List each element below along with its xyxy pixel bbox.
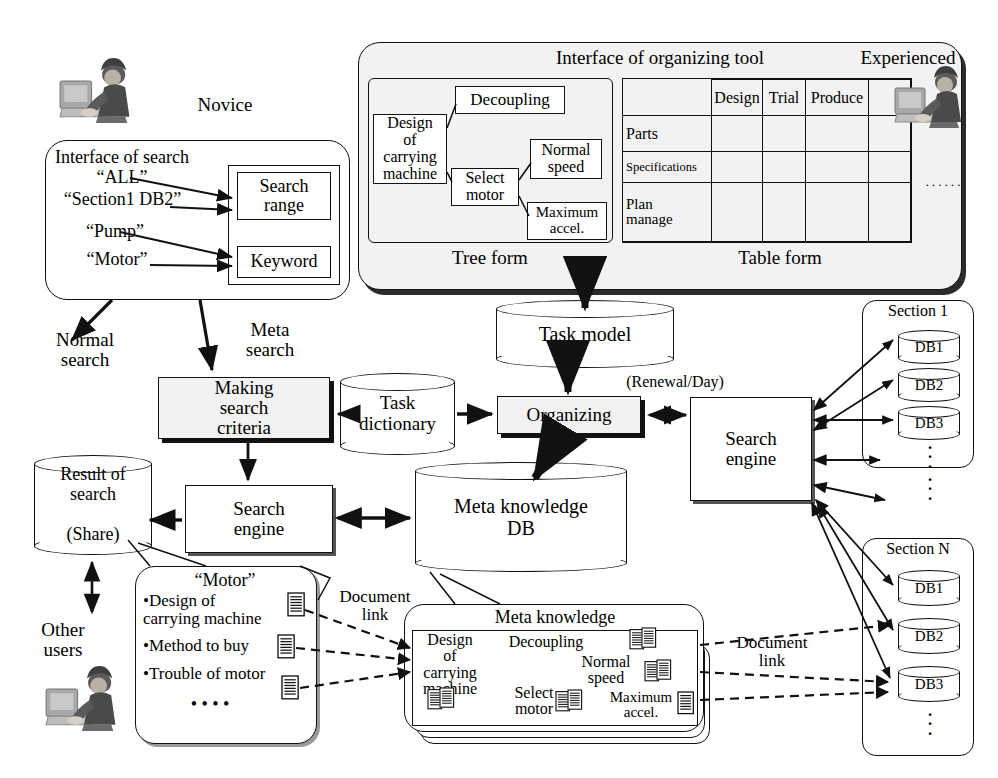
diagram-canvas: Interface of organizing tool Experienced…: [0, 0, 998, 778]
table-cell[interactable]: [869, 182, 911, 241]
result-item-trouble[interactable]: •Trouble of motor: [143, 665, 318, 683]
result-item-design[interactable]: •Design of carrying machine: [143, 592, 308, 628]
task-dictionary-label: Task dictionary: [340, 373, 455, 455]
section1-db1[interactable]: DB1: [898, 330, 960, 364]
table-cell[interactable]: [806, 182, 869, 241]
sectionN-db1[interactable]: DB1: [898, 570, 960, 606]
mk-node-select-motor[interactable]: Select motor: [500, 685, 568, 718]
table-cell[interactable]: [712, 182, 763, 241]
table-col-trial: Trial: [763, 80, 806, 116]
sectionN-db2[interactable]: DB2: [898, 618, 960, 654]
field-keyword[interactable]: Keyword: [237, 246, 331, 278]
between-sections-dots: · · ·: [900, 475, 960, 503]
sectionN-db3[interactable]: DB3: [898, 666, 960, 702]
organizing-box[interactable]: Organizing: [497, 396, 641, 434]
meta-knowledge-db-label: Meta knowledge DB: [415, 462, 627, 572]
task-dictionary-cylinder[interactable]: Task dictionary: [340, 373, 455, 455]
section1-db2[interactable]: DB2: [898, 368, 960, 402]
table-cell[interactable]: [763, 116, 806, 152]
tree-node-decoupling[interactable]: Decoupling: [455, 86, 565, 114]
table-ellipsis: ······: [914, 178, 974, 192]
making-search-criteria-box[interactable]: Making search criteria: [158, 377, 330, 439]
table-cell[interactable]: [712, 116, 763, 152]
result-of-search-label: Result of search (Share): [34, 455, 152, 555]
tree-node-root[interactable]: Design of carrying machine: [373, 114, 447, 184]
section-1-more-dots: · · ·: [900, 443, 960, 471]
section-n-more-dots: · · ·: [900, 710, 960, 738]
task-model-cylinder[interactable]: Task model: [496, 300, 674, 368]
result-of-search-cylinder[interactable]: Result of search (Share): [34, 455, 152, 555]
novice-label: Novice: [165, 95, 285, 115]
result-panel-title: “Motor”: [150, 571, 300, 590]
other-users-label: Other users: [8, 620, 118, 660]
table-cell[interactable]: [763, 182, 806, 241]
tree-node-normal-speed[interactable]: Normal speed: [530, 139, 602, 179]
normal-search-label: Normal search: [20, 330, 150, 370]
table-cell[interactable]: [712, 152, 763, 182]
tree-form-caption: Tree form: [390, 248, 590, 268]
search-interface-title: Interface of search: [55, 148, 255, 167]
query-pump[interactable]: “Pump”: [55, 222, 175, 241]
table-form-caption: Table form: [680, 248, 880, 268]
table-cell[interactable]: [806, 152, 869, 182]
mk-node-maximum-accel[interactable]: Maximum accel.: [598, 690, 684, 721]
mk-node-root[interactable]: Design of carrying machine: [415, 632, 485, 697]
section1-db3-label: DB3: [898, 406, 960, 440]
meta-search-label: Meta search: [215, 320, 325, 360]
organizing-tool-title: Interface of organizing tool: [460, 48, 860, 68]
meta-knowledge-db-cylinder[interactable]: Meta knowledge DB: [415, 462, 627, 572]
search-engine-left-box[interactable]: Search engine: [185, 485, 333, 553]
sectionN-db1-label: DB1: [898, 570, 960, 606]
tree-node-maximum-accel[interactable]: Maximum accel.: [527, 202, 607, 240]
meta-knowledge-panel-title: Meta knowledge: [450, 608, 660, 627]
result-item-method[interactable]: •Method to buy: [143, 637, 303, 655]
table-cell[interactable]: [806, 116, 869, 152]
other-users-person-icon: [46, 666, 115, 731]
table-cell[interactable]: [763, 152, 806, 182]
table-cell[interactable]: [869, 116, 911, 152]
table-row-header-parts: Parts: [623, 116, 712, 152]
query-section1-db2[interactable]: “Section1 DB2”: [40, 190, 205, 209]
table-col-extra: [869, 80, 911, 116]
task-model-label: Task model: [496, 300, 674, 368]
novice-person-icon: [60, 58, 129, 123]
query-all[interactable]: “ALL”: [62, 168, 182, 187]
section-n-title: Section N: [862, 541, 974, 558]
field-search-range[interactable]: Search range: [237, 172, 331, 220]
table-row-header-specifications: Specifications: [623, 152, 712, 182]
table-form[interactable]: Design Trial Produce Parts Specification…: [622, 78, 912, 243]
search-engine-right-box[interactable]: Search engine: [690, 397, 812, 501]
sectionN-db2-label: DB2: [898, 618, 960, 654]
table-col-produce: Produce: [806, 80, 869, 116]
table-cell[interactable]: [869, 152, 911, 182]
result-ellipsis: • • • •: [150, 695, 270, 714]
section1-db2-label: DB2: [898, 368, 960, 402]
mk-node-decoupling[interactable]: Decoupling: [496, 634, 596, 651]
section-1-title: Section 1: [862, 303, 974, 320]
experienced-label: Experienced: [828, 48, 988, 68]
sectionN-db3-label: DB3: [898, 666, 960, 702]
mk-node-normal-speed[interactable]: Normal speed: [570, 654, 642, 687]
tree-node-select-motor[interactable]: Select motor: [451, 168, 519, 206]
section1-db3[interactable]: DB3: [898, 406, 960, 440]
section1-db1-label: DB1: [898, 330, 960, 364]
document-link-right-label: Document link: [712, 634, 832, 670]
query-motor[interactable]: “Motor”: [52, 250, 182, 269]
table-col-design: Design: [712, 80, 763, 116]
renewal-label: (Renewal/Day): [600, 374, 750, 391]
table-row-header-plan-manage: Plan manage: [623, 182, 712, 241]
